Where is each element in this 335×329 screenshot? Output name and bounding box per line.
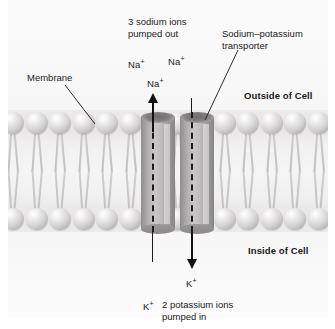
potassium-ion-2-charge: + <box>150 300 154 307</box>
potassium-ion-1: K+ <box>186 277 197 289</box>
sodium-ion-2-charge: + <box>181 55 185 62</box>
sodium-ion-3: Na+ <box>147 77 164 89</box>
transporter-leader-line <box>205 50 238 120</box>
membrane-caption: Membrane <box>27 72 72 84</box>
sodium-ion-3-charge: + <box>160 77 164 84</box>
potassium-ion-1-charge: + <box>193 277 197 284</box>
sodium-ion-1-label: Na <box>128 59 141 70</box>
sodium-ion-2-label: Na <box>168 56 181 67</box>
sodium-ion-2: Na+ <box>168 55 185 67</box>
membrane-leader-line <box>65 85 95 124</box>
sodium-potassium-pump-diagram: Na+ Na+ Na+ K+ K+ 3 sodium ions pumped o… <box>0 0 335 329</box>
sodium-ion-1-charge: + <box>141 58 145 65</box>
sodium-out-caption: 3 sodium ions pumped out <box>128 16 187 39</box>
potassium-ion-2: K+ <box>143 300 154 312</box>
sodium-ion-1: Na+ <box>128 58 145 70</box>
outside-of-cell-label: Outside of Cell <box>244 90 313 102</box>
sodium-ion-3-label: Na <box>147 78 160 89</box>
potassium-in-caption: 2 potassium ions pumped in <box>162 299 233 322</box>
transporter-caption: Sodium–potassium transporter <box>222 28 303 51</box>
inside-of-cell-label: Inside of Cell <box>248 245 309 257</box>
